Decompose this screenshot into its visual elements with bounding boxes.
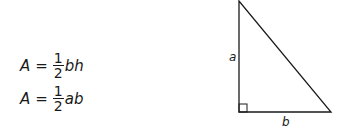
triangle-shape [239,1,331,112]
right-triangle-diagram: a b [0,0,361,135]
side-label-a: a [229,50,236,64]
side-label-b: b [282,115,290,129]
right-angle-marker-icon [239,104,247,112]
